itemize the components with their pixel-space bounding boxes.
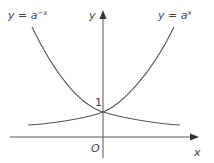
y-intercept-label: 1 (95, 97, 102, 108)
x-axis-label: x (194, 147, 201, 158)
y-axis-arrow-icon (100, 10, 107, 19)
y-axis-label: y (89, 10, 96, 21)
label-curve-a-neg-x: y = a−x (8, 10, 47, 21)
origin-label: O (91, 143, 100, 154)
x-axis-arrow-icon (190, 134, 199, 141)
label-curve-a-x: y = ax (158, 10, 192, 21)
curve-a-x (28, 27, 174, 125)
exponential-graph (0, 0, 214, 163)
